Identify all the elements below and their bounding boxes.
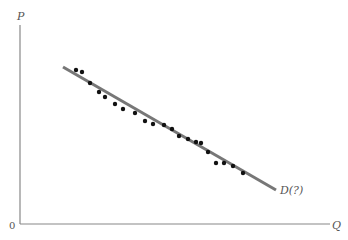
data-point bbox=[88, 81, 92, 85]
origin-label: 0 bbox=[9, 220, 15, 231]
data-point bbox=[231, 164, 235, 168]
data-point bbox=[121, 107, 125, 111]
data-point bbox=[241, 171, 245, 175]
data-point bbox=[222, 161, 226, 165]
y-axis-label: P bbox=[16, 10, 25, 23]
data-point bbox=[97, 90, 101, 94]
data-point bbox=[177, 134, 181, 138]
data-point bbox=[113, 102, 117, 106]
data-point bbox=[80, 70, 84, 74]
data-point bbox=[143, 119, 147, 123]
data-point bbox=[199, 141, 203, 145]
demand-scatter-chart: P Q 0 D(?) bbox=[0, 0, 348, 240]
data-point bbox=[186, 137, 190, 141]
x-axis-label: Q bbox=[332, 219, 341, 232]
data-point bbox=[194, 140, 198, 144]
data-point bbox=[133, 111, 137, 115]
data-point bbox=[103, 95, 107, 99]
demand-curve-label: D(?) bbox=[279, 184, 303, 197]
data-point bbox=[214, 161, 218, 165]
data-point bbox=[151, 122, 155, 126]
data-point bbox=[74, 68, 78, 72]
data-point bbox=[206, 150, 210, 154]
data-point bbox=[162, 123, 166, 127]
data-point bbox=[170, 127, 174, 131]
